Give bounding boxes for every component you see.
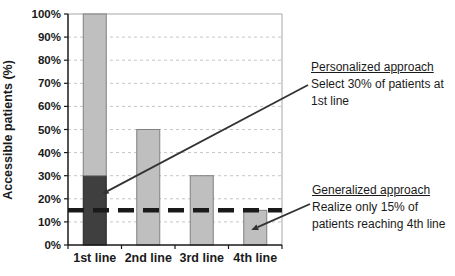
svg-text:Accessible patients (%): Accessible patients (%): [1, 60, 15, 200]
annotation-generalized-title: Generalized approach: [312, 182, 445, 199]
svg-text:10%: 10%: [38, 216, 61, 228]
annotation-personalized-line2: 1st line: [311, 93, 444, 110]
annotation-personalized-line1: Select 30% of patients at: [311, 76, 444, 93]
svg-text:3rd line: 3rd line: [180, 251, 225, 265]
svg-text:90%: 90%: [38, 31, 61, 43]
svg-text:70%: 70%: [38, 77, 61, 89]
svg-text:20%: 20%: [38, 193, 61, 205]
annotation-generalized-line2: patients reaching 4th line: [312, 216, 445, 233]
svg-text:60%: 60%: [38, 100, 61, 112]
svg-text:50%: 50%: [38, 124, 61, 136]
svg-text:100%: 100%: [32, 8, 61, 20]
svg-text:40%: 40%: [38, 147, 61, 159]
svg-text:30%: 30%: [38, 170, 61, 182]
svg-text:1st line: 1st line: [73, 251, 116, 265]
annotation-personalized-title: Personalized approach: [311, 59, 444, 76]
svg-text:80%: 80%: [38, 54, 61, 66]
annotation-personalized-approach: Personalized approach Select 30% of pati…: [311, 59, 444, 110]
svg-text:2nd line: 2nd line: [125, 251, 172, 265]
svg-text:4th line: 4th line: [233, 251, 277, 265]
annotation-generalized-approach: Generalized approach Realize only 15% of…: [312, 182, 445, 233]
svg-text:0%: 0%: [44, 239, 61, 251]
annotation-generalized-line1: Realize only 15% of: [312, 199, 445, 216]
chart-plot: 0%10%20%30%40%50%60%70%80%90%100%1st lin…: [0, 0, 455, 276]
accessible-patients-bar-chart: 0%10%20%30%40%50%60%70%80%90%100%1st lin…: [0, 0, 455, 276]
